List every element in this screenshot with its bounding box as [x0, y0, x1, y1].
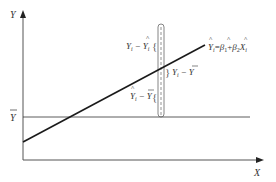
- svg-text:Y: Y: [10, 112, 17, 123]
- svg-text:Yi−Y: Yi−Y: [172, 67, 195, 78]
- svg-text:}: }: [165, 66, 170, 78]
- svg-text:Yi−Y: Yi−Y: [130, 91, 153, 102]
- regression-diagram: Y X Y Yi−Yi ^ { } Yi−Y Yi−Y ^ {: [0, 0, 276, 182]
- x-axis-arrow-icon: [256, 157, 264, 163]
- svg-text:Yi=β1+β2Xi: Yi=β1+β2Xi: [208, 42, 247, 53]
- total-deviation-label: } Yi−Y: [165, 66, 198, 78]
- mean-label: Y: [10, 110, 17, 123]
- svg-text:^: ^: [146, 34, 150, 42]
- y-axis-label: Y: [10, 9, 17, 20]
- svg-text:{: {: [152, 91, 157, 103]
- regression-equation: Yi=β1+β2Xi ^ ^ ^: [208, 35, 248, 53]
- svg-text:^: ^: [244, 35, 248, 43]
- svg-text:Yi−Yi: Yi−Yi: [126, 41, 150, 52]
- explained-deviation-label: Yi−Y ^ {: [130, 84, 157, 103]
- y-axis-arrow-icon: [20, 10, 26, 18]
- regression-line: [23, 45, 205, 142]
- x-axis-label: X: [253, 167, 261, 178]
- residual-label: Yi−Yi ^ {: [126, 34, 157, 52]
- svg-text:{: {: [152, 40, 157, 52]
